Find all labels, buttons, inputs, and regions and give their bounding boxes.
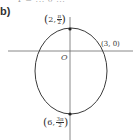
label-point-top: (2, π2 ) — [44, 14, 66, 25]
point-bottom — [68, 112, 71, 115]
origin-label: O — [61, 53, 68, 62]
label-point-right: (3, 0) — [101, 40, 120, 48]
ellipse-curve — [35, 28, 107, 114]
point-top — [68, 27, 71, 30]
label-point-bottom: (6, 3π2 ) — [43, 117, 68, 128]
